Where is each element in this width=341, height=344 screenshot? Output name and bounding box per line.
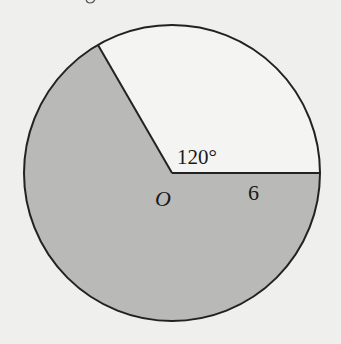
radius-label: 6 — [248, 180, 259, 205]
angle-label: 120° — [177, 145, 217, 169]
circle-sector-diagram: 120° O 6 — [0, 0, 341, 344]
cropped-text-fragment — [86, 0, 95, 3]
center-label: O — [155, 186, 171, 211]
